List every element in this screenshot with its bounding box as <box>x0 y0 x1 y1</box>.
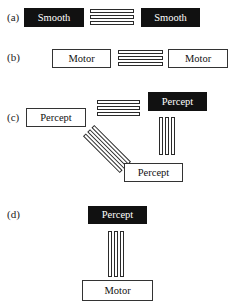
smooth-node-right: Smooth <box>141 8 200 27</box>
panel-c-label: (c) <box>7 111 19 123</box>
percept-node-top-right-text: Percept <box>162 96 194 108</box>
motor-node-bottom: Motor <box>82 280 153 301</box>
connector-bar <box>159 117 163 155</box>
connector-bar <box>171 117 175 155</box>
percept-node-bottom-text: Percept <box>138 167 170 179</box>
panel-a-label: (a) <box>7 11 19 23</box>
connector-bar <box>90 9 134 13</box>
connector-bar <box>118 62 163 66</box>
connector-bar <box>97 100 140 104</box>
connector-bar <box>120 231 124 277</box>
connector-bars-horizontal <box>118 50 163 66</box>
connector-bar <box>97 112 140 116</box>
motor-node-bottom-text: Motor <box>104 285 130 297</box>
percept-node-left-text: Percept <box>40 112 72 124</box>
panel-d-label: (d) <box>7 208 20 220</box>
connector-bar <box>90 15 134 19</box>
connector-bar <box>118 50 163 54</box>
percept-node-top: Percept <box>88 206 147 224</box>
percept-node-bottom: Percept <box>124 163 183 182</box>
connector-bar <box>114 231 118 277</box>
percept-node-top-right: Percept <box>148 92 207 111</box>
connector-bar <box>97 106 140 110</box>
smooth-node-left: Smooth <box>24 8 84 27</box>
motor-node-left-text: Motor <box>68 53 94 65</box>
percept-node-top-text: Percept <box>102 209 134 221</box>
connector-bar <box>108 231 112 277</box>
motor-node-left: Motor <box>52 49 111 68</box>
smooth-node-right-text: Smooth <box>154 12 187 24</box>
connector-bar <box>87 129 127 169</box>
panel-b-label: (b) <box>7 51 20 63</box>
connector-bar <box>90 21 134 25</box>
connector-bars-horizontal <box>90 9 134 25</box>
connector-bar <box>165 117 169 155</box>
motor-node-right-text: Motor <box>185 53 211 65</box>
connector-bars-vertical <box>159 117 175 155</box>
percept-node-left: Percept <box>26 108 86 127</box>
connector-bars-horizontal <box>97 100 140 116</box>
connector-bars-vertical <box>108 231 125 277</box>
connector-bar <box>118 56 163 60</box>
smooth-node-left-text: Smooth <box>38 12 71 24</box>
motor-node-right: Motor <box>168 49 228 68</box>
